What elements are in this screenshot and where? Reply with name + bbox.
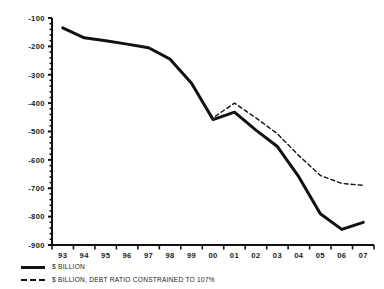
y-axis-tick-label: -400 xyxy=(28,99,45,108)
x-axis-tick-label: 00 xyxy=(208,251,217,260)
x-axis-tick-label: 95 xyxy=(101,251,111,260)
x-axis-tick-label: 05 xyxy=(316,251,326,260)
x-axis-tick-label: 97 xyxy=(144,251,153,260)
chart-legend: $ BILLION $ BILLION, DEBT RATIO CONSTRAI… xyxy=(20,261,360,287)
series-line-billion xyxy=(63,28,364,229)
y-axis-tick-label: -300 xyxy=(28,71,45,80)
x-axis-tick-label: 96 xyxy=(123,251,132,260)
y-axis-tick-label: -500 xyxy=(28,127,45,136)
y-axis-tick-label: -900 xyxy=(28,241,45,250)
y-axis-group: -100-200-300-400-500-600-700-800-900 xyxy=(28,14,52,250)
x-axis-tick-label: 06 xyxy=(337,251,346,260)
x-axis-tick-label: 01 xyxy=(230,251,240,260)
solid-line-swatch-icon xyxy=(20,262,46,272)
legend-item-debt-ratio-constrained: $ BILLION, DEBT RATIO CONSTRAINED TO 107… xyxy=(20,274,360,285)
y-axis-tick-label: -800 xyxy=(28,212,45,221)
x-axis-tick-label: 98 xyxy=(165,251,174,260)
y-axis-tick-labels: -100-200-300-400-500-600-700-800-900 xyxy=(28,14,45,250)
x-axis-group: 939495969798990001020304050607 xyxy=(52,245,374,260)
x-axis-tick-label: 94 xyxy=(80,251,90,260)
x-axis-tick-label: 99 xyxy=(187,251,196,260)
x-axis-tick-labels: 939495969798990001020304050607 xyxy=(58,251,368,260)
y-axis-tick-label: -700 xyxy=(28,184,45,193)
x-axis-tick-label: 07 xyxy=(359,251,368,260)
dashed-line-swatch-icon xyxy=(20,275,46,285)
x-axis-tick-label: 04 xyxy=(294,251,304,260)
series-line-debt-ratio-constrained xyxy=(63,28,364,185)
y-axis-tick-label: -600 xyxy=(28,156,45,165)
series-group xyxy=(63,28,364,229)
legend-label-billion: $ BILLION xyxy=(52,262,85,272)
y-axis-tick-label: -100 xyxy=(28,14,45,23)
x-axis-tick-label: 03 xyxy=(273,251,282,260)
legend-label-debt-ratio-constrained: $ BILLION, DEBT RATIO CONSTRAINED TO 107… xyxy=(52,275,215,285)
y-axis-tick-label: -200 xyxy=(28,42,45,51)
line-chart-plot: -100-200-300-400-500-600-700-800-900 939… xyxy=(0,0,384,289)
chart-container: -100-200-300-400-500-600-700-800-900 939… xyxy=(0,0,384,289)
x-axis-tick-label: 93 xyxy=(58,251,67,260)
legend-item-billion: $ BILLION xyxy=(20,261,360,272)
x-axis-tick-label: 02 xyxy=(251,251,260,260)
